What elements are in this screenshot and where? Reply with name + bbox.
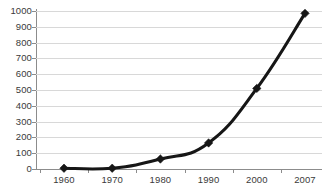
series-data-point <box>156 155 164 163</box>
y-axis-tick-label: 100 <box>0 148 32 158</box>
y-axis-tick-label: 900 <box>0 22 32 32</box>
line-chart: 01002003004005006007008009001000 1960197… <box>0 0 326 195</box>
series-svg <box>36 11 322 169</box>
series-data-point <box>60 164 68 172</box>
y-axis-tick-label: 0 <box>0 164 32 174</box>
x-axis-tick-label: 1960 <box>38 175 90 185</box>
series-marker-group <box>60 9 309 172</box>
y-axis-tick-label: 500 <box>0 85 32 95</box>
x-axis-tick-label: 1990 <box>183 175 235 185</box>
y-axis-tick-label: 1000 <box>0 6 32 16</box>
plot-area <box>36 11 322 169</box>
y-axis-tick-label: 400 <box>0 101 32 111</box>
y-axis-tick-label: 200 <box>0 132 32 142</box>
x-axis-tick-label: 1970 <box>86 175 138 185</box>
x-axis-tick-label: 2007 <box>279 175 326 185</box>
series-line <box>64 13 305 169</box>
x-axis-tick-label: 1980 <box>134 175 186 185</box>
series-data-point <box>108 164 116 172</box>
y-axis-tick-label: 800 <box>0 38 32 48</box>
y-axis-tick-label: 600 <box>0 69 32 79</box>
y-axis-tick-label: 700 <box>0 53 32 63</box>
y-axis-tick-label: 300 <box>0 117 32 127</box>
x-axis-tick-label: 2000 <box>231 175 283 185</box>
